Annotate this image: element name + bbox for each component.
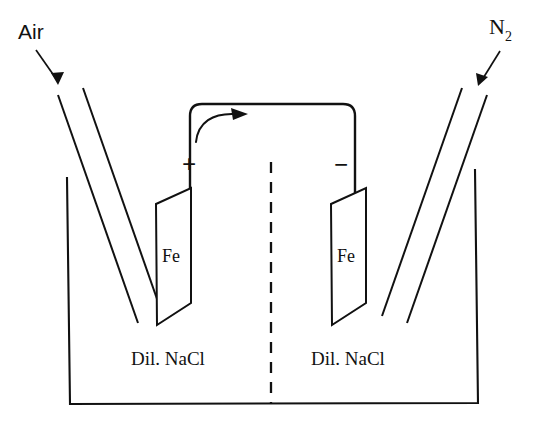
right-electrolyte-label: Dil. NaCl	[311, 348, 385, 369]
nitrogen-inlet-annotation: N 2	[476, 14, 512, 86]
nitrogen-pointer-arrowhead	[476, 73, 488, 86]
air-inlet-annotation: Air	[18, 20, 64, 85]
right-electrode-label: Fe	[337, 246, 355, 266]
left-electrode-label: Fe	[162, 246, 180, 266]
left-gas-tube	[58, 88, 163, 323]
nitrogen-label-subscript: 2	[505, 29, 512, 44]
current-flow-arrowhead	[231, 108, 248, 120]
positive-terminal-sign: +	[182, 151, 196, 178]
nitrogen-label: N	[489, 14, 505, 39]
right-electrode: Fe	[331, 188, 366, 325]
left-electrolyte-label: Dil. NaCl	[131, 348, 205, 369]
cell-diagram-canvas: Air N 2 + − Fe Fe	[0, 0, 535, 427]
current-flow-arrow-curve	[196, 114, 235, 142]
right-gas-tube	[382, 88, 487, 323]
nitrogen-pointer-line	[482, 51, 500, 80]
external-circuit	[190, 104, 355, 196]
left-electrode: Fe	[156, 188, 191, 325]
cell-vessel	[67, 170, 478, 404]
vessel-outline	[67, 170, 478, 404]
air-pointer-arrowhead	[51, 72, 64, 85]
air-label: Air	[18, 20, 44, 43]
diagram-root: Air N 2 + − Fe Fe	[0, 0, 535, 427]
circuit-wire-path	[190, 104, 355, 196]
current-flow-arrow	[196, 108, 248, 142]
negative-terminal-sign: −	[334, 151, 348, 178]
